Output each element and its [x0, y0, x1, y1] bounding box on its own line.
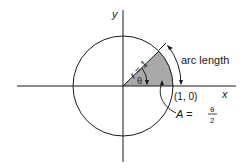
area-denominator: 2 — [210, 116, 215, 125]
y-axis-label: y — [111, 8, 119, 20]
area-label-prefix: A = — [175, 108, 193, 120]
arc-arrowhead-top — [167, 45, 173, 50]
point-label: (1, 0) — [174, 91, 197, 102]
arc-tick — [159, 43, 166, 50]
arc-length-label: arc length — [181, 54, 229, 66]
arc-arrowhead-bottom — [179, 80, 183, 85]
unit-circle-diagram: y x r = 1 θ arc length (1, 0) A = θ 2 — [0, 0, 243, 168]
theta-label: θ — [137, 76, 142, 86]
x-axis-label: x — [221, 88, 228, 100]
area-numerator: θ — [210, 105, 215, 114]
